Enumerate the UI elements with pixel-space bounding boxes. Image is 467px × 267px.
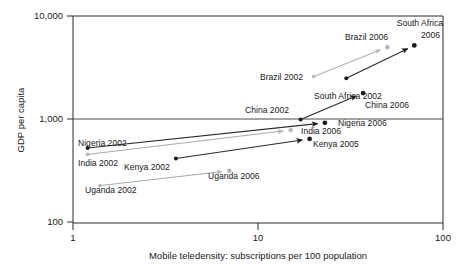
trend-arrow xyxy=(346,49,407,79)
data-point-marker xyxy=(174,157,178,161)
y-axis-ticks: 10,000 1,000 100 xyxy=(34,10,73,227)
point-label-south-africa: South Africa xyxy=(397,18,444,28)
point-label-uganda-2006: Uganda 2006 xyxy=(208,171,260,181)
point-label-nigeria-2002: Nigeria 2002 xyxy=(78,138,127,148)
data-point-marker xyxy=(312,75,316,79)
trend-arrow xyxy=(314,50,381,77)
y-tick-label-100: 100 xyxy=(47,216,63,227)
trend-arrow xyxy=(176,140,302,159)
x-tick-label-10: 10 xyxy=(253,232,264,243)
series-brazil xyxy=(312,45,390,78)
data-point-marker xyxy=(323,120,328,125)
data-point-marker xyxy=(288,128,292,132)
y-tick-label-1000: 1,000 xyxy=(39,113,63,124)
series-kenya xyxy=(174,137,312,161)
point-label-2006: 2006 xyxy=(421,30,440,40)
point-label-uganda-2002: Uganda 2002 xyxy=(85,185,137,195)
scatter-plot-canvas: 10,000 1,000 100 1 10 100 Mobile teleden… xyxy=(0,0,467,267)
y-axis-title: GDP per capita xyxy=(15,87,26,152)
data-point-marker xyxy=(344,76,348,80)
series-south-africa xyxy=(344,43,416,80)
point-label-india-2002: India 2002 xyxy=(78,158,118,168)
data-point-marker xyxy=(385,45,389,49)
point-label-nigeria-2006: Nigeria 2006 xyxy=(338,118,387,128)
point-label-kenya-2002: Kenya 2002 xyxy=(124,162,170,172)
point-label-brazil-2002: Brazil 2002 xyxy=(260,72,303,82)
point-label-brazil-2006: Brazil 2006 xyxy=(345,32,388,42)
x-axis-title: Mobile teledensity: subscriptions per 10… xyxy=(149,250,367,261)
data-point-marker xyxy=(412,43,417,48)
y-tick-label-10000: 10,000 xyxy=(34,10,63,21)
data-point-marker xyxy=(307,137,312,142)
trend-arrow xyxy=(100,172,222,186)
point-label-china-2002: China 2002 xyxy=(245,105,289,115)
data-point-marker xyxy=(299,118,303,122)
point-label-kenya-2005: Kenya 2005 xyxy=(313,139,359,149)
data-point-marker xyxy=(86,153,90,157)
point-label-layer: South Africa2006Brazil 2006Brazil 2002So… xyxy=(78,18,443,195)
x-tick-label-1: 1 xyxy=(70,232,75,243)
x-axis-ticks: 1 10 100 xyxy=(70,223,451,243)
chart-figure: 10,000 1,000 100 1 10 100 Mobile teleden… xyxy=(0,0,467,267)
point-label-china-2006: China 2006 xyxy=(365,100,409,110)
point-label-india-2006: India 2006 xyxy=(301,126,341,136)
x-tick-label-100: 100 xyxy=(435,232,451,243)
